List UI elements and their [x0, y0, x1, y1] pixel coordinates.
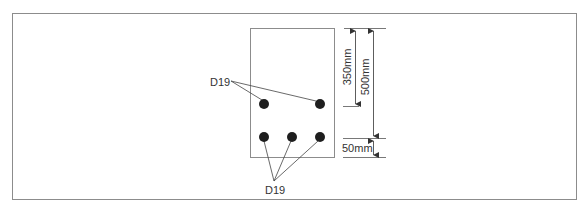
rebar-section-diagram: D19 D19 350mm 500mm 50mm: [0, 0, 586, 213]
dim-50-label: 50mm: [342, 142, 373, 154]
dim-500-label: 500mm: [359, 59, 371, 96]
bottom-bar-label: D19: [265, 184, 285, 196]
rebar-bottom-3: [315, 132, 325, 142]
rebar-bottom-2: [287, 132, 297, 142]
rebar-top-1: [259, 99, 269, 109]
dim-350-label: 350mm: [341, 49, 353, 86]
top-bar-label: D19: [210, 76, 230, 88]
rebar-bottom-1: [259, 132, 269, 142]
rebar-top-2: [315, 99, 325, 109]
